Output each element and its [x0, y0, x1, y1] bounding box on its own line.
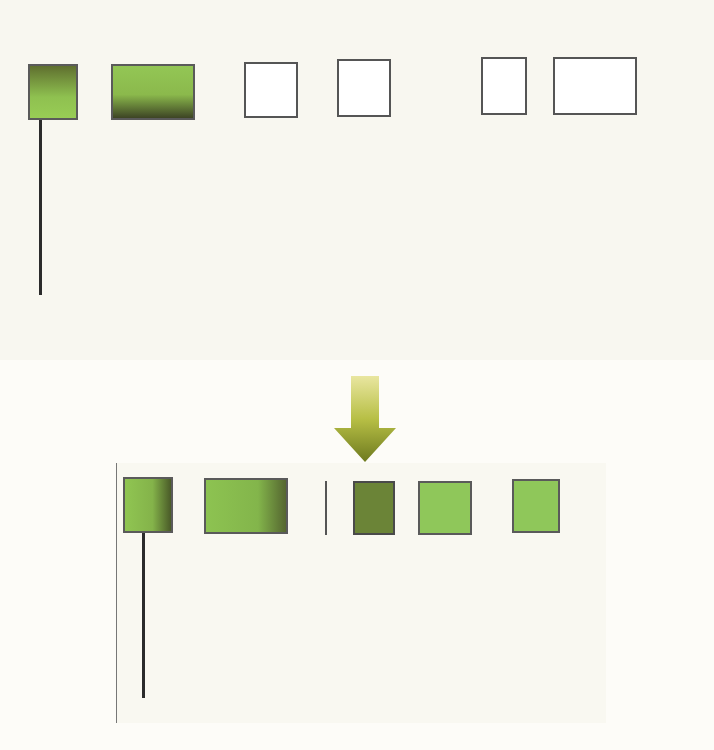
word-box-zhende [111, 64, 195, 120]
word-stem [142, 533, 145, 698]
word-box-de [481, 57, 527, 115]
word-box-ni [123, 477, 173, 533]
reordered-waveform-panel [116, 463, 606, 723]
word-box-ke [418, 481, 472, 535]
word-box-zhende [204, 478, 288, 534]
word-box-ke [244, 62, 298, 118]
original-waveform-panel [0, 0, 714, 360]
word-box-ni [28, 64, 78, 120]
word-stem [39, 120, 42, 295]
panel-left-rule [116, 463, 117, 723]
word-box-hen [353, 481, 395, 535]
word-box-ai [512, 479, 560, 533]
word-box-henyo [553, 57, 637, 115]
word-box-ai [337, 59, 391, 117]
insertion-marker [325, 481, 327, 535]
arrow-down-icon [334, 376, 396, 462]
